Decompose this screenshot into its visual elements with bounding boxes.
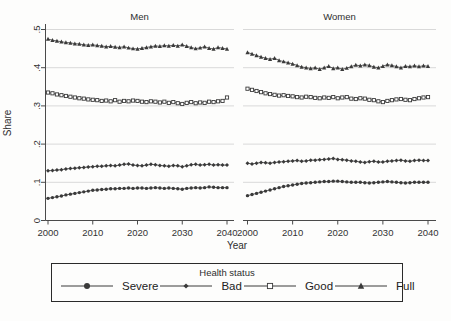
svg-text:2010: 2010 xyxy=(282,227,303,238)
x-axis-title: Year xyxy=(26,240,448,252)
svg-text:.4: .4 xyxy=(31,64,42,72)
bad-diamond-marker-icon xyxy=(158,280,214,292)
legend-item-bad: Bad xyxy=(158,279,241,293)
figure: 2000-2040 Men Women 20002010202020302040… xyxy=(0,0,451,321)
legend-item-label: Bad xyxy=(221,279,241,293)
legend-item-label: Good xyxy=(305,279,333,293)
svg-text:.2: .2 xyxy=(31,140,42,148)
svg-text:2030: 2030 xyxy=(372,227,393,238)
good-square-marker-icon xyxy=(242,280,298,292)
svg-text:2040: 2040 xyxy=(417,227,438,238)
y-axis-title: Share xyxy=(2,68,14,178)
svg-text:2020: 2020 xyxy=(127,227,148,238)
legend: Health status Severe Bad Good Full xyxy=(51,263,403,302)
svg-text:.5: .5 xyxy=(31,26,42,34)
legend-title: Health status xyxy=(52,267,402,278)
legend-item-severe: Severe xyxy=(59,279,158,293)
svg-text:2000: 2000 xyxy=(37,227,58,238)
svg-text:2010: 2010 xyxy=(82,227,103,238)
legend-item-good: Good xyxy=(242,279,333,293)
svg-text:.1: .1 xyxy=(31,178,42,186)
legend-item-label: Severe xyxy=(122,279,158,293)
full-triangle-marker-icon xyxy=(333,280,389,292)
svg-text:0: 0 xyxy=(31,218,42,223)
legend-item-full: Full xyxy=(333,279,415,293)
svg-text:2020: 2020 xyxy=(327,227,348,238)
legend-item-label: Full xyxy=(396,279,415,293)
svg-text:.3: .3 xyxy=(31,102,42,110)
chart-canvas: 200020102020203020400.1.2.3.4.5200020102… xyxy=(0,0,451,258)
svg-text:2000: 2000 xyxy=(237,227,258,238)
severe-circle-marker-icon xyxy=(59,280,115,292)
svg-text:2040: 2040 xyxy=(216,227,237,238)
svg-text:2030: 2030 xyxy=(172,227,193,238)
legend-row: Severe Bad Good Full xyxy=(52,278,402,293)
